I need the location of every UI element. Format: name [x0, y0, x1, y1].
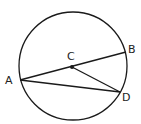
center-point-C	[70, 65, 74, 69]
geometry-diagram: A B C D	[0, 0, 141, 124]
label-D: D	[122, 91, 130, 104]
label-C: C	[67, 50, 75, 63]
label-B: B	[128, 43, 136, 56]
radius-CD	[72, 67, 120, 92]
label-A: A	[5, 74, 13, 87]
chord-AD	[20, 80, 120, 92]
